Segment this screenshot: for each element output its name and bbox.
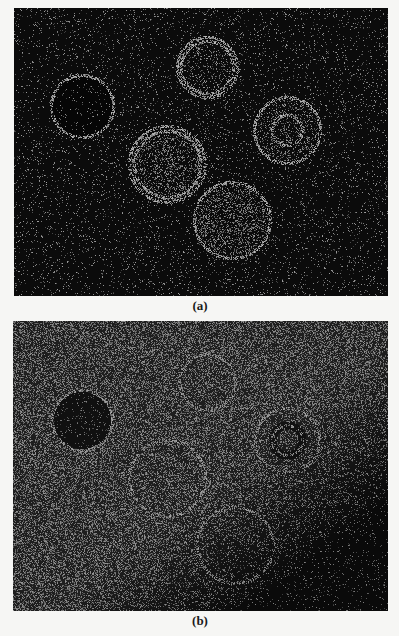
caption-b: (b) <box>170 614 230 628</box>
edge-map-canvas-b <box>13 321 388 611</box>
figure-panel-b-image <box>13 321 388 611</box>
caption-a: (a) <box>170 299 230 313</box>
edge-map-canvas-a <box>14 8 388 296</box>
figure-panel-a-image <box>14 8 388 296</box>
